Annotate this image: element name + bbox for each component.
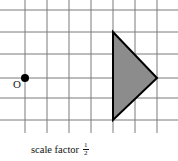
origin-label: O: [13, 79, 21, 90]
horizontal-gridlines: [0, 10, 178, 120]
caption-text: scale factor: [31, 145, 79, 156]
scale-factor-diagram: O scale factor12: [0, 0, 178, 161]
grid-svg: [0, 0, 178, 133]
fraction-denominator: 2: [83, 149, 89, 157]
scale-factor-fraction: 12: [83, 142, 89, 158]
centre-of-enlargement-dot: [21, 74, 29, 82]
caption: scale factor12: [31, 142, 89, 158]
grid-area: O: [0, 0, 178, 133]
fraction-numerator: 1: [83, 142, 89, 149]
